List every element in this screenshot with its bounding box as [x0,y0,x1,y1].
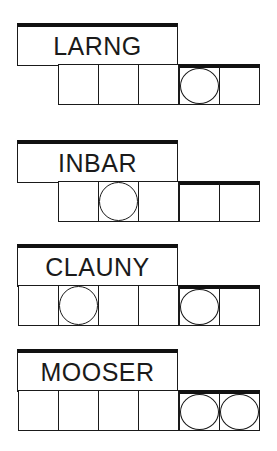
scrambled-word: INBAR [58,149,137,178]
answer-letter-cell[interactable] [18,285,59,326]
circle-marker-icon [180,68,219,104]
answer-letter-cell[interactable] [138,285,179,326]
circle-marker-icon [180,394,219,430]
answer-letter-cell[interactable] [138,64,179,105]
answer-letter-cell[interactable] [98,285,139,326]
answer-letter-cell-circled[interactable] [179,390,220,431]
answer-letter-cell[interactable] [58,64,99,105]
answer-letter-cell[interactable] [179,181,220,222]
answer-letter-cell[interactable] [138,390,179,431]
scrambled-word-box: CLAUNY [17,244,178,287]
answer-letter-cell[interactable] [98,390,139,431]
scrambled-word: MOOSER [40,358,154,387]
answer-letter-cell[interactable] [58,181,99,222]
scrambled-word-box: LARNG [17,23,178,66]
scrambled-word-box: INBAR [17,140,178,183]
answer-letter-cell-circled[interactable] [58,285,99,326]
circle-marker-icon [59,286,98,325]
answer-letter-cell[interactable] [219,285,260,326]
circle-marker-icon [180,289,219,325]
scrambled-word: CLAUNY [45,253,149,282]
answer-letter-cell[interactable] [219,64,260,105]
circle-marker-icon [99,182,138,221]
scrambled-word: LARNG [53,32,142,61]
answer-letter-cell-circled[interactable] [219,390,260,431]
scrambled-word-box: MOOSER [17,349,178,392]
answer-letter-cell[interactable] [98,64,139,105]
answer-letter-cell[interactable] [219,181,260,222]
answer-letter-cell-circled[interactable] [98,181,139,222]
answer-letter-cell-circled[interactable] [179,285,220,326]
answer-letter-cell[interactable] [58,390,99,431]
answer-letter-cell[interactable] [18,390,59,431]
answer-letter-cell-circled[interactable] [179,64,220,105]
answer-letter-cell[interactable] [138,181,179,222]
circle-marker-icon [220,394,259,430]
